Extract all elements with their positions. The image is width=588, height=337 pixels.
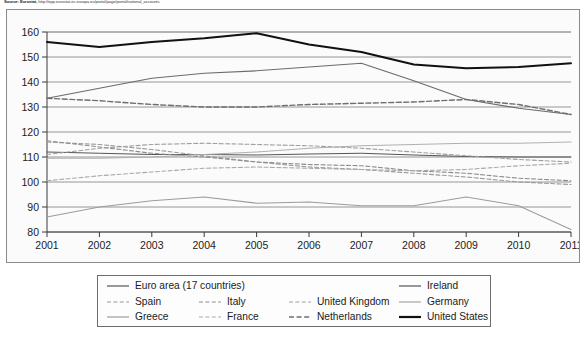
legend-swatch-france <box>198 312 222 322</box>
legend-label-united-states: United States <box>427 311 488 322</box>
ytick-label-160: 160 <box>21 26 39 38</box>
xtick-label-2005: 2005 <box>245 239 269 251</box>
legend-label-spain: Spain <box>135 296 161 307</box>
legend-swatch-spain <box>106 297 130 307</box>
ytick-label-80: 80 <box>27 226 39 238</box>
legend-item-ireland[interactable]: Ireland <box>398 280 458 291</box>
legend-item-france[interactable]: France <box>198 311 259 322</box>
chart-legend: Euro area (17 countries)IrelandSpainItal… <box>97 275 491 327</box>
legend-label-euro-area-17-countries: Euro area (17 countries) <box>135 280 245 291</box>
source-note-url: http://epp.eurostat.ec.europa.eu/portal/… <box>38 0 159 4</box>
chart-plot-area: 8090100110120130140150160200120022003200… <box>6 9 580 263</box>
xtick-label-2001: 2001 <box>35 239 59 251</box>
xtick-label-2007: 2007 <box>350 239 374 251</box>
ytick-label-150: 150 <box>21 51 39 63</box>
legend-swatch-netherlands <box>288 312 312 322</box>
series-line-euro-area-17-countries <box>47 152 571 157</box>
legend-label-netherlands: Netherlands <box>317 311 372 322</box>
legend-item-netherlands[interactable]: Netherlands <box>288 311 372 322</box>
series-line-greece <box>47 197 571 230</box>
ytick-label-120: 120 <box>21 126 39 138</box>
legend-swatch-greece <box>106 312 130 322</box>
legend-swatch-ireland <box>398 281 422 291</box>
xtick-label-2008: 2008 <box>402 239 426 251</box>
legend-label-italy: Italy <box>227 296 246 307</box>
ytick-label-140: 140 <box>21 76 39 88</box>
xtick-label-2010: 2010 <box>507 239 531 251</box>
source-note-label: Source: Eurostat, <box>4 0 37 4</box>
legend-swatch-euro-area-17-countries <box>106 281 130 291</box>
legend-label-ireland: Ireland <box>427 280 458 291</box>
series-line-netherlands <box>47 98 571 114</box>
ytick-label-100: 100 <box>21 176 39 188</box>
legend-grid: Euro area (17 countries)IrelandSpainItal… <box>98 276 490 326</box>
series-line-united-kingdom <box>47 143 571 162</box>
source-note: Source: Eurostat, http://epp.eurostat.ec… <box>4 0 384 7</box>
xtick-label-2002: 2002 <box>88 239 112 251</box>
chart-page: Source: Eurostat, http://epp.eurostat.ec… <box>0 0 588 337</box>
legend-swatch-united-kingdom <box>288 297 312 307</box>
series-line-france <box>47 163 571 181</box>
series-line-united-states <box>47 33 571 68</box>
legend-item-spain[interactable]: Spain <box>106 296 161 307</box>
legend-label-united-kingdom: United Kingdom <box>317 296 390 307</box>
legend-item-euro-area-17-countries[interactable]: Euro area (17 countries) <box>106 280 245 291</box>
ytick-label-110: 110 <box>22 151 39 163</box>
ytick-label-90: 90 <box>27 201 39 213</box>
xtick-label-2011: 2011 <box>560 239 579 251</box>
legend-item-united-states[interactable]: United States <box>398 311 488 322</box>
xtick-label-2009: 2009 <box>455 239 479 251</box>
legend-item-united-kingdom[interactable]: United Kingdom <box>288 296 390 307</box>
line-chart-svg: 8090100110120130140150160200120022003200… <box>7 10 579 262</box>
legend-label-germany: Germany <box>427 296 469 307</box>
xtick-label-2004: 2004 <box>193 239 217 251</box>
legend-item-greece[interactable]: Greece <box>106 311 168 322</box>
legend-swatch-united-states <box>398 312 422 322</box>
xtick-label-2006: 2006 <box>297 239 321 251</box>
legend-swatch-germany <box>398 297 422 307</box>
xtick-label-2003: 2003 <box>140 239 164 251</box>
legend-label-greece: Greece <box>135 311 168 322</box>
legend-label-france: France <box>227 311 259 322</box>
legend-swatch-italy <box>198 297 222 307</box>
ytick-label-130: 130 <box>21 101 39 113</box>
legend-item-italy[interactable]: Italy <box>198 296 246 307</box>
legend-item-germany[interactable]: Germany <box>398 296 469 307</box>
